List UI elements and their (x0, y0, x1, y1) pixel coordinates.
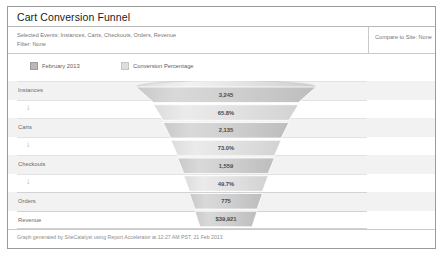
compare-to-site-text: Compare to Site: None (375, 34, 432, 40)
chart-legend: February 2013 Conversion Percentage (8, 54, 435, 81)
legend-swatch-icon (121, 62, 129, 70)
page-title: Cart Conversion Funnel (17, 11, 130, 23)
legend-item-conversion[interactable]: Conversion Percentage (121, 62, 194, 70)
funnel-band-value: 775 (221, 198, 231, 204)
filter-text: Filter: None (17, 40, 176, 49)
report-meta-bar: Selected Events: Instances, Carts, Check… (8, 27, 435, 54)
legend-label-conversion: Conversion Percentage (133, 63, 194, 69)
footer-credit: Graph generated by SiteCatalyst using Re… (17, 234, 223, 240)
funnel-band-value: $39,921 (216, 216, 238, 222)
funnel-band-value: 2,135 (219, 127, 234, 133)
funnel-plot-area: Instances↓Carts↓Checkouts↓OrdersRevenue (8, 81, 435, 229)
selected-events-text: Selected Events: Instances, Carts, Check… (17, 31, 176, 40)
legend-label-period: February 2013 (42, 63, 80, 69)
funnel-band-value: 65.8% (218, 110, 234, 116)
funnel-band-value: 49.7% (218, 181, 234, 187)
footer-divider (8, 229, 435, 230)
meta-left-group: Selected Events: Instances, Carts, Check… (17, 31, 176, 49)
report-card: Cart Conversion Funnel Selected Events: … (7, 6, 436, 249)
funnel-graphic: 3,24565.8%2,13573.0%1,55949.7%775$39,921 (8, 81, 448, 229)
funnel-band-value: 73.0% (218, 145, 234, 151)
funnel-band-value: 1,559 (219, 163, 234, 169)
legend-swatch-icon (30, 62, 38, 70)
legend-item-period[interactable]: February 2013 (30, 62, 80, 70)
funnel-band-value: 3,245 (219, 92, 234, 98)
meta-divider (368, 27, 369, 53)
card-title-bar: Cart Conversion Funnel (8, 7, 435, 27)
